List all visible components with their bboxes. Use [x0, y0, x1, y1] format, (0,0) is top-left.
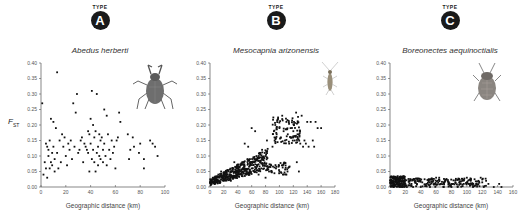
svg-text:40: 40 [418, 189, 424, 195]
scatter-plots: 0.000.050.100.150.200.250.300.350.400204… [0, 0, 521, 221]
svg-text:0.15: 0.15 [196, 137, 206, 143]
svg-text:80: 80 [449, 189, 455, 195]
svg-text:0.10: 0.10 [196, 153, 206, 159]
svg-text:0.05: 0.05 [27, 168, 37, 174]
svg-text:20: 20 [403, 189, 409, 195]
svg-text:20: 20 [221, 189, 227, 195]
svg-text:0.20: 0.20 [376, 122, 386, 128]
giant-water-bug-icon [133, 65, 177, 109]
svg-text:80: 80 [263, 189, 269, 195]
svg-text:80: 80 [137, 189, 143, 195]
svg-text:120: 120 [478, 189, 487, 195]
svg-text:0.00: 0.00 [196, 184, 206, 190]
svg-text:0.10: 0.10 [27, 153, 37, 159]
svg-text:160: 160 [509, 189, 518, 195]
svg-text:120: 120 [289, 189, 298, 195]
diving-beetle-icon [473, 63, 501, 101]
svg-text:0.05: 0.05 [376, 168, 386, 174]
svg-text:0.20: 0.20 [27, 122, 37, 128]
svg-text:0.00: 0.00 [27, 184, 37, 190]
svg-text:0.40: 0.40 [376, 60, 386, 66]
svg-text:0.15: 0.15 [27, 137, 37, 143]
svg-text:100: 100 [275, 189, 284, 195]
svg-text:0.25: 0.25 [376, 106, 386, 112]
axes: 0.000.050.100.150.200.250.300.350.400204… [27, 60, 517, 195]
svg-text:0: 0 [389, 189, 392, 195]
stonefly-icon [322, 62, 338, 95]
svg-text:60: 60 [249, 189, 255, 195]
svg-text:0.05: 0.05 [196, 168, 206, 174]
svg-text:0.40: 0.40 [196, 60, 206, 66]
svg-text:60: 60 [113, 189, 119, 195]
svg-text:0.40: 0.40 [27, 60, 37, 66]
svg-text:0.00: 0.00 [376, 184, 386, 190]
x-axis-label-a: Geographic distance (km) [23, 202, 183, 209]
svg-text:0.30: 0.30 [27, 91, 37, 97]
data-points [41, 71, 502, 188]
svg-text:160: 160 [317, 189, 326, 195]
svg-text:40: 40 [235, 189, 241, 195]
svg-text:0.30: 0.30 [196, 91, 206, 97]
svg-text:0.25: 0.25 [196, 106, 206, 112]
svg-text:140: 140 [493, 189, 502, 195]
svg-text:0.15: 0.15 [376, 137, 386, 143]
svg-text:100: 100 [161, 189, 170, 195]
svg-text:0: 0 [209, 189, 212, 195]
svg-text:0.35: 0.35 [27, 75, 37, 81]
svg-text:0.30: 0.30 [376, 91, 386, 97]
svg-text:180: 180 [331, 189, 340, 195]
svg-text:0.35: 0.35 [196, 75, 206, 81]
svg-text:0.35: 0.35 [376, 75, 386, 81]
svg-text:0.25: 0.25 [27, 106, 37, 112]
svg-text:0: 0 [40, 189, 43, 195]
svg-text:140: 140 [303, 189, 312, 195]
x-axis-label-c: Geographic distance (km) [371, 202, 521, 209]
x-axis-label-b: Geographic distance (km) [192, 202, 352, 209]
svg-text:100: 100 [463, 189, 472, 195]
svg-text:0.10: 0.10 [376, 153, 386, 159]
svg-text:0.20: 0.20 [196, 122, 206, 128]
svg-text:20: 20 [63, 189, 69, 195]
svg-text:40: 40 [88, 189, 94, 195]
svg-text:60: 60 [433, 189, 439, 195]
